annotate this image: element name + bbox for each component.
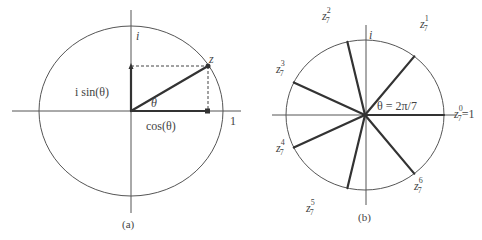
root-labels: z07=1z17z27z37z47z57z67 xyxy=(275,6,474,217)
point-z-label: z xyxy=(208,52,214,66)
sin-label: i sin(θ) xyxy=(75,85,109,99)
unit-label: 1 xyxy=(230,114,236,128)
root-label-4: z47 xyxy=(275,138,285,157)
root-label-6: z67 xyxy=(413,176,423,195)
imag-axis-label-b: i xyxy=(369,28,372,42)
angle-annotation: θ = 2π/7 xyxy=(377,99,417,113)
root-label-0: z07=1 xyxy=(453,104,474,123)
diagram-canvas: i z θ i sin(θ) cos(θ) 1 (a) z07=1z17z27z… xyxy=(0,0,482,240)
root-label-5: z57 xyxy=(305,198,315,217)
angle-label: θ xyxy=(151,96,157,110)
caption-a: (a) xyxy=(122,218,135,231)
root-label-3: z37 xyxy=(275,59,285,78)
root-spoke-5 xyxy=(347,115,365,188)
root-label-2: z27 xyxy=(321,6,331,25)
vector-z xyxy=(131,66,208,111)
arrowhead-cos xyxy=(205,109,210,114)
figure-b: z07=1z17z27z37z47z57z67 i θ = 2π/7 (b) xyxy=(272,6,474,224)
root-spoke-3 xyxy=(294,83,365,116)
root-spoke-4 xyxy=(294,115,365,148)
cos-label: cos(θ) xyxy=(146,119,176,133)
figure-a: i z θ i sin(θ) cos(θ) 1 (a) xyxy=(12,10,241,231)
caption-b: (b) xyxy=(358,211,371,224)
root-spoke-2 xyxy=(347,42,365,115)
imag-axis-label-a: i xyxy=(136,29,139,43)
root-label-1: z17 xyxy=(419,14,429,33)
root-spoke-6 xyxy=(365,115,414,174)
